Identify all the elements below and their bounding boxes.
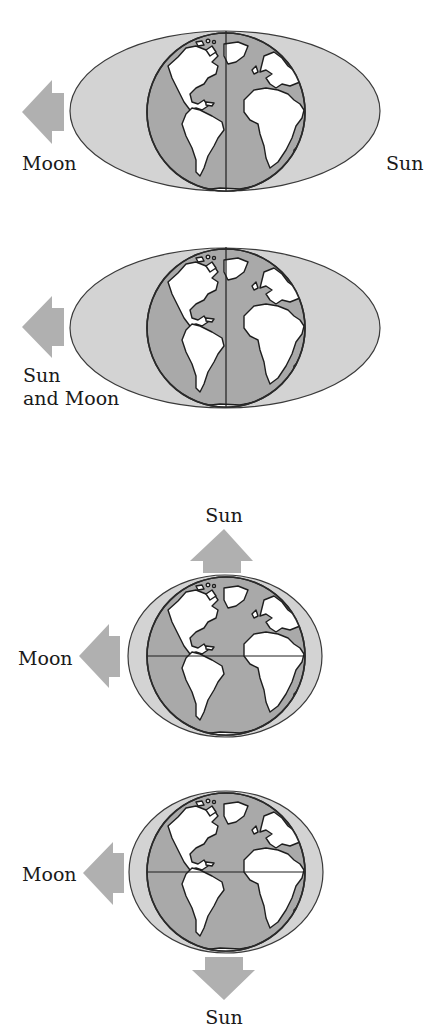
earth-globe (147, 577, 305, 736)
moon-direction-arrow-icon (79, 624, 120, 688)
panel-3: Sun Moon (18, 504, 322, 737)
panel-1: Moon Sun (22, 31, 424, 192)
moon-label: Moon (18, 647, 73, 669)
sun-label: Sun (205, 504, 243, 526)
moon-direction-arrow-icon (83, 842, 124, 905)
sun-direction-arrow-up-icon (190, 529, 253, 573)
sun-label: Sun (205, 1006, 243, 1028)
tides-diagram: Moon Sun Sun and Moon Sun Moon (0, 0, 442, 1028)
sun-and-moon-direction-arrow-icon (22, 296, 64, 358)
moon-direction-arrow-icon (22, 80, 64, 144)
sun-direction-arrow-down-icon (192, 957, 255, 1000)
sun-and-moon-label-line1: Sun (23, 364, 61, 386)
moon-label: Moon (22, 863, 77, 885)
sun-label: Sun (386, 152, 424, 174)
earth-globe (147, 793, 305, 952)
moon-label: Moon (22, 152, 77, 174)
sun-and-moon-label-line2: and Moon (23, 387, 119, 409)
panel-2: Sun and Moon (22, 247, 380, 409)
earth-globe (147, 247, 305, 408)
panel-4: Moon Sun (22, 791, 323, 1028)
earth-globe (147, 31, 305, 192)
